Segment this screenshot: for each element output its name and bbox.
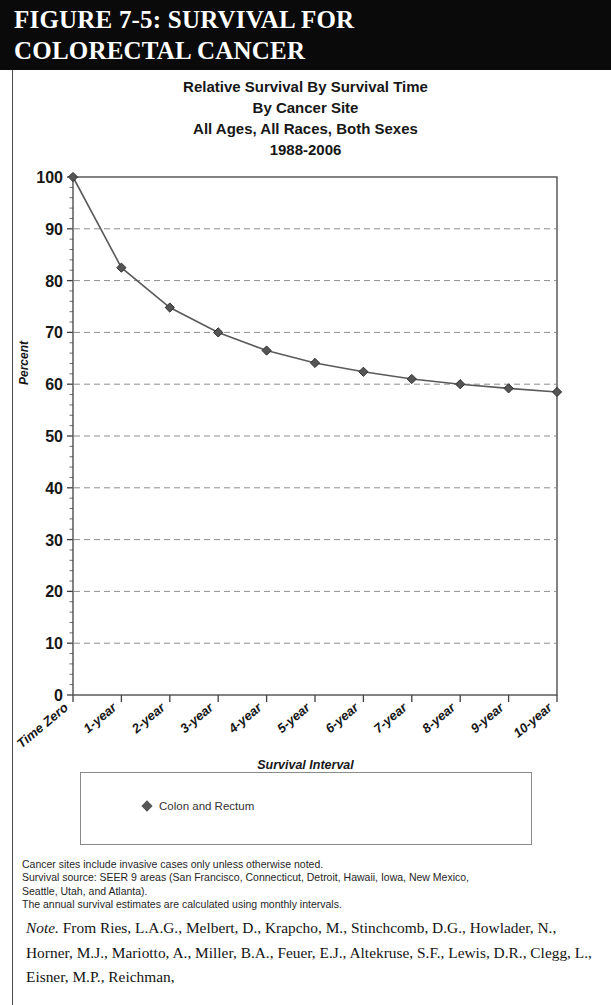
x-tick-label: 10-year (510, 699, 555, 740)
chart-title-line-2: By Cancer Site (0, 97, 611, 118)
x-tick-label: 5-year (274, 699, 314, 736)
chart-title-line-1: Relative Survival By Survival Time (0, 76, 611, 97)
y-tick-label: 70 (45, 324, 63, 341)
data-point-marker (68, 172, 77, 181)
chart-title-line-3: All Ages, All Races, Both Sexes (0, 118, 611, 139)
data-point-marker (456, 380, 465, 389)
x-tick-label: 4-year (225, 699, 265, 736)
y-tick-label: 20 (45, 583, 63, 600)
figure-header-line-2: COLORECTAL CANCER (14, 35, 611, 66)
x-tick-label: 2-year (128, 699, 168, 736)
figure-header-band: FIGURE 7-5: SURVIVAL FOR COLORECTAL CANC… (0, 0, 611, 70)
legend-entry-colon-and-rectum: Colon and Rectum (143, 800, 254, 812)
footnote-line-2: Survival source: SEER 9 areas (San Franc… (22, 871, 594, 884)
data-point-marker (359, 367, 368, 376)
y-tick-label: 100 (36, 169, 63, 186)
gridline-group (74, 229, 556, 643)
footnote-line-4: The annual survival estimates are calcul… (22, 898, 594, 911)
note-prefix: Note. (26, 919, 59, 936)
data-point-marker (214, 328, 223, 337)
y-tick-label: 30 (45, 532, 63, 549)
data-point-marker (165, 303, 174, 312)
y-tick-label: 40 (45, 480, 63, 497)
data-point-marker (504, 384, 513, 393)
source-note: Note. From Ries, L.A.G., Melbert, D., Kr… (26, 916, 596, 990)
y-axis-label: Percent (17, 341, 31, 385)
series-marker-group (68, 172, 561, 396)
y-tick-label: 60 (45, 376, 63, 393)
y-tick-label-group: 0102030405060708090100 (36, 169, 63, 704)
series-line-group (73, 177, 557, 392)
x-axis-label: Survival Interval (0, 758, 611, 772)
chart-title-block: Relative Survival By Survival Time By Ca… (0, 76, 611, 160)
diamond-marker-icon (141, 800, 152, 811)
chart-title-line-4: 1988-2006 (0, 139, 611, 160)
series-line (73, 177, 557, 392)
footnote-line-3: Seattle, Utah, and Atlanta). (22, 885, 594, 898)
x-tick-group (73, 695, 557, 702)
x-tick-label: 3-year (177, 699, 217, 736)
y-tick-group (67, 177, 73, 695)
y-tick-label: 0 (54, 687, 63, 704)
y-tick-label: 10 (45, 635, 63, 652)
data-point-marker (310, 358, 319, 367)
y-tick-label: 80 (45, 273, 63, 290)
data-point-marker (552, 387, 561, 396)
x-tick-label: 9-year (468, 699, 508, 736)
note-body: From Ries, L.A.G., Melbert, D., Krapcho,… (26, 919, 592, 985)
legend-box: Colon and Rectum (80, 772, 532, 845)
plot-frame (73, 177, 557, 695)
y-tick-label: 50 (45, 428, 63, 445)
x-tick-label: 1-year (80, 699, 120, 736)
x-tick-label: Time Zero (14, 700, 71, 751)
footnote-line-1: Cancer sites include invasive cases only… (22, 858, 594, 871)
footnote-block: Cancer sites include invasive cases only… (22, 858, 594, 912)
data-point-marker (262, 346, 271, 355)
legend-label: Colon and Rectum (159, 800, 254, 812)
x-tick-label-group: Time Zero1-year2-year3-year4-year5-year6… (14, 699, 556, 751)
x-tick-label: 8-year (419, 699, 459, 736)
data-point-marker (407, 374, 416, 383)
figure-page: FIGURE 7-5: SURVIVAL FOR COLORECTAL CANC… (0, 0, 611, 1005)
x-tick-label: 6-year (322, 699, 362, 736)
data-point-marker (117, 263, 126, 272)
figure-header-line-1: FIGURE 7-5: SURVIVAL FOR (14, 4, 611, 35)
page-left-rule (12, 70, 13, 1005)
x-tick-label: 7-year (371, 699, 411, 736)
y-tick-label: 90 (45, 221, 63, 238)
